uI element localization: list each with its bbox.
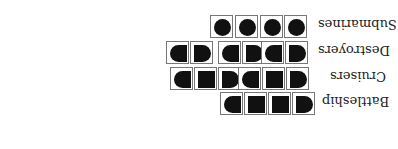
ship-stern-icon (292, 92, 315, 115)
ship-hull-icon (244, 92, 267, 115)
ship-bow-icon (238, 67, 261, 90)
ship-stern-icon (190, 41, 213, 64)
row-label-cruisers: Cruisers (330, 69, 386, 84)
ship-hull-icon (194, 67, 217, 90)
submarine-icon (260, 15, 283, 38)
ship-bow-icon (166, 41, 189, 64)
submarine (235, 15, 259, 38)
ship-stern-icon (286, 67, 309, 90)
ship-hull-icon (262, 67, 285, 90)
ship-bow-icon (261, 41, 284, 64)
row-label-destroyers: Destroyers (318, 43, 390, 58)
destroyer (218, 41, 266, 64)
cruiser (170, 67, 242, 90)
ship-bow-icon (170, 67, 193, 90)
submarine (210, 15, 234, 38)
destroyer (166, 41, 214, 64)
ship-bow-icon (220, 92, 243, 115)
cruiser (238, 67, 310, 90)
row-label-battleship: Battleship (322, 94, 389, 109)
destroyer (261, 41, 309, 64)
submarine (260, 15, 284, 38)
row-label-submarines: Submarines (318, 17, 397, 32)
submarine-icon (284, 15, 307, 38)
battleship (220, 92, 316, 115)
submarine-icon (235, 15, 258, 38)
ship-hull-icon (268, 92, 291, 115)
submarine (284, 15, 308, 38)
submarine-icon (210, 15, 233, 38)
ship-stern-icon (285, 41, 308, 64)
ship-bow-icon (218, 41, 241, 64)
